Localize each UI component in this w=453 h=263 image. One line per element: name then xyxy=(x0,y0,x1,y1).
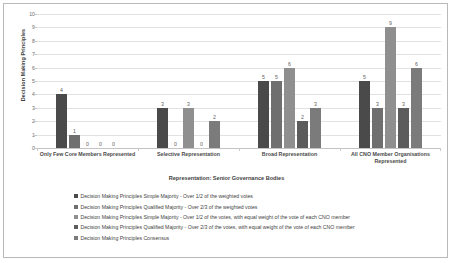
bar-slot: 3 xyxy=(183,14,194,148)
bar-group: 55623 xyxy=(239,14,340,148)
x-axis-category-labels: Only Few Core Members RepresentedSelecti… xyxy=(37,151,441,165)
y-axis-tick: 1 xyxy=(21,132,35,138)
bar-value-label: 3 xyxy=(161,101,164,107)
bar[interactable] xyxy=(284,68,295,148)
bar[interactable] xyxy=(209,121,220,148)
bar-value-label: 5 xyxy=(275,74,278,80)
bar[interactable] xyxy=(411,68,422,148)
bar-slot: 3 xyxy=(310,14,321,148)
bar[interactable] xyxy=(310,108,321,148)
legend-item[interactable]: Decision Making Principles Qualified Maj… xyxy=(74,201,404,211)
bar[interactable] xyxy=(372,108,383,148)
bar-value-label: 0 xyxy=(99,141,102,147)
legend-color-swatch-icon xyxy=(74,236,78,240)
bar[interactable] xyxy=(359,81,370,148)
legend-item[interactable]: Decision Making Principles Qualified Maj… xyxy=(74,222,404,232)
chart-legend: Decision Making Principles Simple Majori… xyxy=(74,191,404,243)
legend-item[interactable]: Decision Making Principles Consensus xyxy=(74,233,404,243)
bar[interactable] xyxy=(271,81,282,148)
bar[interactable] xyxy=(297,121,308,148)
bar-value-label: 3 xyxy=(187,101,190,107)
chart-container: Decision Making Principles 012345678910 … xyxy=(3,3,448,258)
bar-value-label: 3 xyxy=(376,101,379,107)
bar-value-label: 6 xyxy=(288,61,291,67)
y-axis-tick: 2 xyxy=(21,118,35,124)
bar[interactable] xyxy=(183,108,194,148)
y-axis-tick: 4 xyxy=(21,91,35,97)
bar-value-label: 0 xyxy=(174,141,177,147)
bar-value-label: 3 xyxy=(314,101,317,107)
legend-item[interactable]: Decision Making Principles Simple Majori… xyxy=(74,212,404,222)
bar[interactable] xyxy=(385,27,396,148)
legend-color-swatch-icon xyxy=(74,215,78,219)
bar-value-label: 9 xyxy=(389,20,392,26)
bar-value-label: 1 xyxy=(73,128,76,134)
bar-slot: 0 xyxy=(95,14,106,148)
plot-area: Decision Making Principles 012345678910 … xyxy=(4,4,449,156)
bar-slot: 1 xyxy=(69,14,80,148)
bar-value-label: 0 xyxy=(86,141,89,147)
legend-color-swatch-icon xyxy=(74,194,78,198)
bar-slot: 5 xyxy=(271,14,282,148)
y-axis-tick: 9 xyxy=(21,24,35,30)
bar-slot: 3 xyxy=(157,14,168,148)
bar[interactable] xyxy=(157,108,168,148)
y-axis-tick: 6 xyxy=(21,65,35,71)
bar-group: 30302 xyxy=(138,14,239,148)
bar-value-label: 5 xyxy=(363,74,366,80)
bar-slot: 5 xyxy=(359,14,370,148)
bar-value-label: 6 xyxy=(415,61,418,67)
bar-slot: 6 xyxy=(411,14,422,148)
bar-value-label: 0 xyxy=(112,141,115,147)
bar-slot: 0 xyxy=(108,14,119,148)
y-axis-tick: 7 xyxy=(21,51,35,57)
bar-slot: 5 xyxy=(258,14,269,148)
bar-slot: 4 xyxy=(56,14,67,148)
y-axis-tick: 5 xyxy=(21,78,35,84)
bar[interactable] xyxy=(258,81,269,148)
legend-color-swatch-icon xyxy=(74,225,78,229)
legend-label: Decision Making Principles Simple Majori… xyxy=(81,193,253,199)
y-axis-tick: 8 xyxy=(21,38,35,44)
bar-slot: 6 xyxy=(284,14,295,148)
legend-label: Decision Making Principles Qualified Maj… xyxy=(81,204,258,210)
bar[interactable] xyxy=(398,108,409,148)
x-axis-category: Selective Representation xyxy=(138,151,239,165)
legend-item[interactable]: Decision Making Principles Simple Majori… xyxy=(74,191,404,201)
bar-group: 53936 xyxy=(340,14,441,148)
bar-groups: 41000303025562353936 xyxy=(37,14,441,148)
legend-color-swatch-icon xyxy=(74,205,78,209)
bar[interactable] xyxy=(56,94,67,148)
bar-slot: 2 xyxy=(297,14,308,148)
x-axis-category: All CNO Member Organisations Represented xyxy=(340,151,441,165)
bar-value-label: 0 xyxy=(200,141,203,147)
bar-value-label: 5 xyxy=(262,74,265,80)
bar-group: 41000 xyxy=(37,14,138,148)
bar-slot: 2 xyxy=(209,14,220,148)
x-axis-category: Broad Representation xyxy=(239,151,340,165)
y-axis-tick: 3 xyxy=(21,105,35,111)
bar-value-label: 2 xyxy=(213,114,216,120)
legend-label: Decision Making Principles Qualified Maj… xyxy=(81,224,355,230)
bar-slot: 0 xyxy=(196,14,207,148)
x-axis-category: Only Few Core Members Represented xyxy=(37,151,138,165)
bar-value-label: 2 xyxy=(301,114,304,120)
x-axis-title: Representation: Senior Governance Bodies xyxy=(4,175,449,181)
bar-slot: 9 xyxy=(385,14,396,148)
bar-value-label: 4 xyxy=(60,87,63,93)
y-axis-tick: 0 xyxy=(21,145,35,151)
bar-slot: 3 xyxy=(398,14,409,148)
legend-label: Decision Making Principles Consensus xyxy=(81,235,170,241)
bar[interactable] xyxy=(69,135,80,148)
bar-slot: 0 xyxy=(170,14,181,148)
bar-slot: 0 xyxy=(82,14,93,148)
y-axis-tick-labels: 012345678910 xyxy=(21,14,35,148)
y-axis-tick: 10 xyxy=(21,11,35,17)
bar-slot: 3 xyxy=(372,14,383,148)
bar-value-label: 3 xyxy=(402,101,405,107)
legend-label: Decision Making Principles Simple Majori… xyxy=(81,214,351,220)
